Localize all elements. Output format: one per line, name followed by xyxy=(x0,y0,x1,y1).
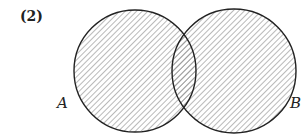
set-a-label: A xyxy=(57,94,68,112)
venn-diagram xyxy=(0,0,306,138)
set-b-label: B xyxy=(290,94,301,112)
